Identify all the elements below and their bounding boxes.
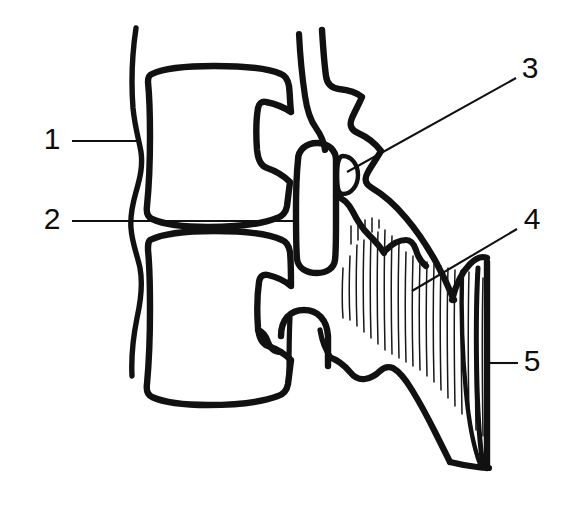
label-2: 2 — [44, 202, 61, 235]
label-3: 3 — [522, 51, 539, 84]
anatomy-diagram: 1 2 3 4 5 — [0, 0, 576, 510]
label-4: 4 — [524, 202, 541, 235]
vertebra-ligaments-illustration: 1 2 3 4 5 — [0, 0, 576, 510]
label-1: 1 — [44, 122, 61, 155]
label-5: 5 — [524, 344, 541, 377]
